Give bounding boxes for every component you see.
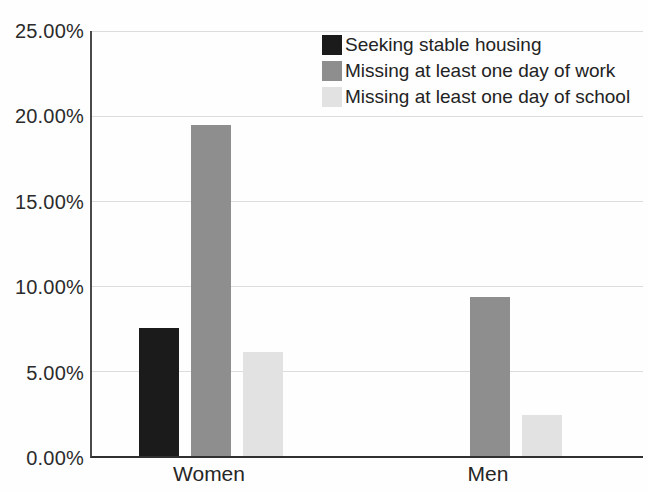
legend-item-seeking-stable-housing: Seeking stable housing bbox=[322, 34, 630, 55]
y-tick-label: 20.00% bbox=[0, 105, 84, 128]
bar-men-series1 bbox=[470, 297, 510, 456]
bar-men-series2 bbox=[522, 415, 562, 456]
gridline bbox=[92, 116, 643, 117]
y-tick-label: 25.00% bbox=[0, 20, 84, 43]
legend-swatch-black bbox=[322, 35, 342, 55]
bar-women-series2 bbox=[243, 352, 283, 456]
y-tick-label: 15.00% bbox=[0, 190, 84, 213]
x-category-label-women: Women bbox=[173, 462, 245, 486]
gridline bbox=[92, 286, 643, 287]
legend-swatch-dark-gray bbox=[322, 61, 342, 81]
bar-women-series1 bbox=[191, 125, 231, 456]
legend-label: Missing at least one day of work bbox=[345, 60, 615, 82]
bar-chart: 25.00%20.00%15.00%10.00%5.00%0.00% Women… bbox=[0, 0, 648, 492]
legend-label: Seeking stable housing bbox=[345, 34, 541, 56]
legend-swatch-light-gray bbox=[322, 87, 342, 107]
legend-item-missing-work: Missing at least one day of work bbox=[322, 60, 630, 81]
y-tick-label: 10.00% bbox=[0, 276, 84, 299]
x-category-label-men: Men bbox=[468, 462, 509, 486]
y-tick-label: 5.00% bbox=[0, 361, 84, 384]
gridline bbox=[92, 201, 643, 202]
bar-women-series0 bbox=[139, 328, 179, 456]
legend-item-missing-school: Missing at least one day of school bbox=[322, 86, 630, 107]
legend-label: Missing at least one day of school bbox=[345, 86, 630, 108]
legend: Seeking stable housing Missing at least … bbox=[322, 34, 630, 107]
y-tick-label: 0.00% bbox=[0, 447, 84, 470]
gridline bbox=[92, 31, 643, 32]
